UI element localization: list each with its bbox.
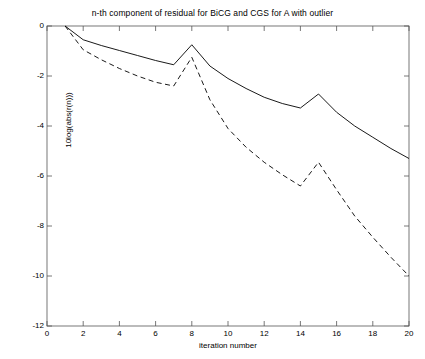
y-tick-label-wrap: -6 [14, 171, 44, 181]
series-line-bicg [65, 26, 409, 159]
y-tick-label-wrap: -10 [14, 271, 44, 281]
y-tick-label: -8 [18, 221, 44, 230]
x-tick-label: 16 [325, 329, 349, 338]
x-tick-label: 10 [216, 329, 240, 338]
y-tick-label-wrap: -4 [14, 121, 44, 131]
y-tick-label: 0 [18, 21, 44, 30]
x-tick-marks [47, 26, 409, 326]
y-tick-marks [47, 26, 409, 326]
x-tick-label: 14 [288, 329, 312, 338]
x-tick-label: 20 [397, 329, 421, 338]
x-tick-label: 2 [71, 329, 95, 338]
y-tick-label: -12 [18, 321, 44, 330]
x-tick-label: 8 [180, 329, 204, 338]
x-tick-label: 6 [144, 329, 168, 338]
y-tick-label: -6 [18, 171, 44, 180]
y-tick-label-wrap: -12 [14, 321, 44, 331]
y-tick-label-wrap: -8 [14, 221, 44, 231]
x-tick-label: 4 [107, 329, 131, 338]
y-tick-label: -10 [18, 271, 44, 280]
axes-frame [47, 26, 409, 326]
y-tick-label-wrap: 0 [14, 21, 44, 31]
y-tick-label: -2 [18, 71, 44, 80]
series-line-cgs [65, 26, 409, 276]
x-tick-label: 18 [361, 329, 385, 338]
figure-container: n-th component of residual for BiCG and … [0, 0, 425, 359]
y-tick-label-wrap: -2 [14, 71, 44, 81]
y-tick-label: -4 [18, 121, 44, 130]
plot-svg [0, 0, 425, 359]
data-series-group [65, 26, 409, 276]
x-tick-label: 12 [252, 329, 276, 338]
